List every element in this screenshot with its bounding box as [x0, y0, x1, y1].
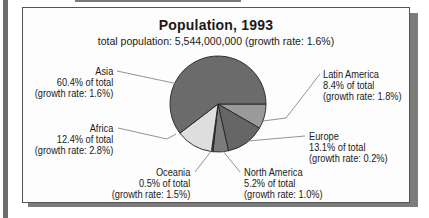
- pie-slices: [170, 56, 266, 152]
- leader-oceania: [195, 150, 212, 172]
- label-africa: Africa 12.4% of total (growth rate: 2.8%…: [34, 123, 113, 156]
- label-europe: Europe 13.1% of total (growth rate: 0.2%…: [309, 131, 388, 164]
- label-oceania: Oceania 0.5% of total (growth rate: 1.5%…: [111, 167, 190, 200]
- label-asia: Asia 60.4% of total (growth rate: 1.6%): [34, 66, 113, 99]
- pie-chart: [0, 0, 429, 218]
- label-north-america: North America 5.2% of total (growth rate…: [244, 167, 323, 200]
- leader-latin-america: [263, 74, 320, 121]
- leader-north-america: [222, 150, 240, 172]
- leader-asia: [117, 71, 178, 84]
- leader-europe: [248, 136, 305, 141]
- leader-africa: [118, 128, 176, 139]
- label-latin-america: Latin America 8.4% of total (growth rate…: [323, 69, 402, 102]
